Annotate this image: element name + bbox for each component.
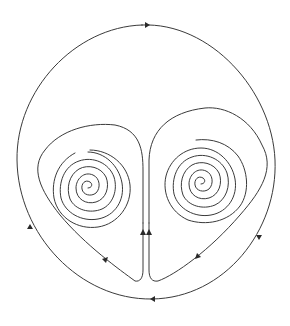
arrow-bottom-left-icon — [150, 296, 155, 302]
phase-portrait-diagram — [0, 0, 290, 326]
arrow-left-up-icon — [27, 224, 33, 229]
arrow-top-right-icon — [145, 22, 150, 28]
arrow-stem-left-up-icon — [140, 229, 146, 235]
left-spiral — [60, 152, 122, 220]
outer-orbit — [17, 25, 275, 299]
diagram-svg — [0, 0, 290, 326]
left-spiral-outer — [53, 150, 130, 227]
right-lobe-orbit — [149, 108, 267, 281]
arrow-right-down-icon — [256, 235, 262, 240]
right-spiral — [165, 140, 247, 223]
arrow-stem-right-up-icon — [146, 229, 152, 235]
